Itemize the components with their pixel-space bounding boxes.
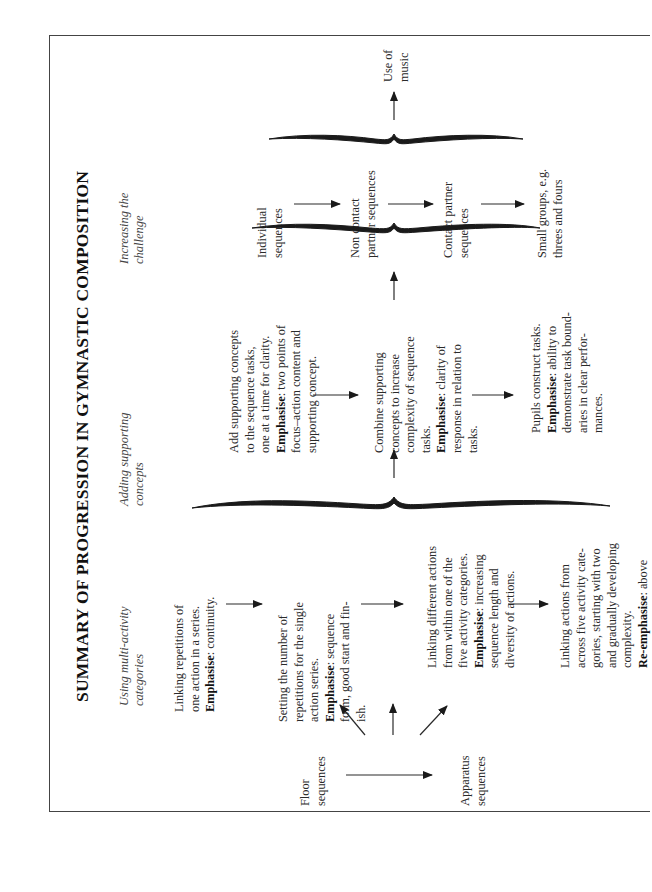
arrow-fan-right — [420, 706, 447, 735]
brace-challenge — [269, 134, 523, 144]
arrow-fan-left — [340, 705, 365, 735]
brace-multi-activity — [192, 497, 610, 509]
brace-supporting-concepts — [252, 223, 540, 233]
